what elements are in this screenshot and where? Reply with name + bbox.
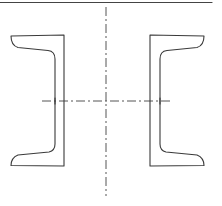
left-channel-section bbox=[11, 35, 64, 166]
right-channel-section bbox=[150, 35, 204, 166]
channel-sections-drawing bbox=[0, 0, 222, 206]
